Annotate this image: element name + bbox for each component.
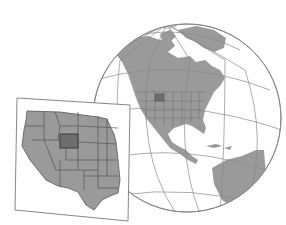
map-illustration [0, 0, 286, 225]
globe-wyoming-highlight [155, 94, 164, 101]
inset-map-panel [15, 98, 130, 221]
inset-wyoming-highlight [60, 134, 78, 148]
